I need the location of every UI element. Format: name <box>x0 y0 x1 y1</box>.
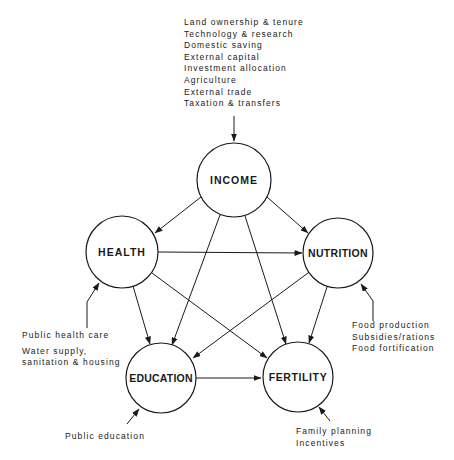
node-fertility: FERTILITY <box>263 342 333 412</box>
nutrition-input-item: Food production <box>352 320 435 332</box>
node-nutrition: NUTRITION <box>303 218 373 288</box>
input-arrow-fertility <box>319 407 330 421</box>
health-input-item: Public health care <box>22 330 121 342</box>
income-input-item: Technology & research <box>184 29 304 41</box>
nutrition-input-item: Subsidies/rations <box>352 332 435 344</box>
nutrition-inputs-list: Food production Subsidies/rations Food f… <box>352 320 435 355</box>
education-input-item: Public education <box>65 431 145 443</box>
node-label-income: INCOME <box>210 174 258 186</box>
health-input-item: Water supply, <box>22 346 121 358</box>
education-inputs-list: Public education <box>65 431 145 443</box>
edge-nutrition-fertility <box>309 287 327 343</box>
edge-income-fertility <box>245 216 286 344</box>
health-input-item: sanitation & housing <box>22 357 121 369</box>
node-income: INCOME <box>197 143 271 217</box>
fertility-input-item: Incentives <box>296 438 372 450</box>
income-input-item: Taxation & transfers <box>184 98 304 110</box>
income-input-item: External trade <box>184 87 304 99</box>
node-health: HEALTH <box>86 216 158 288</box>
input-arrow-nutrition <box>361 284 373 321</box>
health-inputs-list: Public health care Water supply, sanitat… <box>22 330 121 369</box>
edge-income-health <box>155 197 201 233</box>
edge-income-nutrition <box>267 197 308 233</box>
income-input-item: External capital <box>184 52 304 64</box>
income-inputs-list: Land ownership & tenure Technology & res… <box>184 17 304 110</box>
income-input-item: Agriculture <box>184 75 304 87</box>
edge-income-education <box>172 215 220 345</box>
nutrition-input-item: Food fortification <box>352 343 435 355</box>
fertility-inputs-list: Family planning Incentives <box>296 426 372 449</box>
node-education: EDUCATION <box>126 343 196 413</box>
edge-health-nutrition <box>159 252 302 253</box>
input-arrow-health <box>87 283 99 328</box>
node-label-health: HEALTH <box>98 246 146 258</box>
edge-health-education <box>133 286 150 344</box>
node-label-education: EDUCATION <box>129 372 192 384</box>
income-input-item: Land ownership & tenure <box>184 17 304 29</box>
node-label-nutrition: NUTRITION <box>308 247 368 259</box>
input-arrow-education <box>127 409 139 424</box>
income-input-item: Domestic saving <box>184 40 304 52</box>
node-label-fertility: FERTILITY <box>269 371 327 383</box>
income-input-item: Investment allocation <box>184 63 304 75</box>
fertility-input-item: Family planning <box>296 426 372 438</box>
